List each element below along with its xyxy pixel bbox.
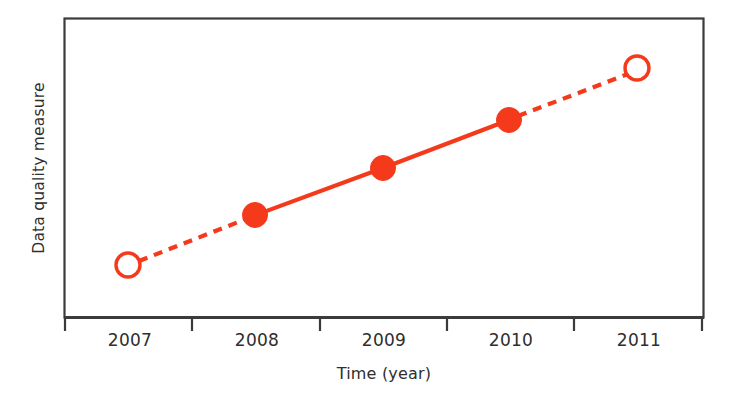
x-tick-label-2011: 2011 [594,330,684,350]
data-point-2008[interactable] [243,203,268,228]
chart-figure: Data quality measure 2007 20 [0,0,732,408]
data-point-2009[interactable] [371,156,396,181]
data-point-2007[interactable] [116,253,140,277]
data-point-2011[interactable] [625,56,649,80]
data-point-2010[interactable] [497,108,522,133]
x-tick-label-2008: 2008 [212,330,302,350]
x-tick-label-2010: 2010 [466,330,556,350]
x-axis-title: Time (year) [64,364,704,383]
x-tick-label-2007: 2007 [85,330,175,350]
x-tick-label-2009: 2009 [339,330,429,350]
